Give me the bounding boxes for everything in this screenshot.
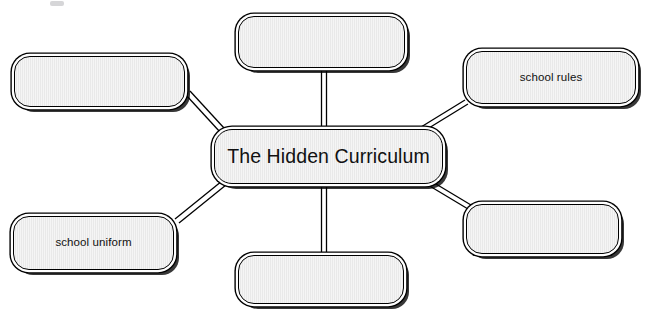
satellite-node-bottom-left[interactable]: school uniform: [13, 216, 174, 270]
satellite-node-bottom-right[interactable]: [466, 204, 619, 254]
satellite-node-bottom-center[interactable]: [238, 255, 404, 304]
central-node-label: The Hidden Curriculum: [227, 145, 430, 167]
satellite-node-top-center[interactable]: [238, 16, 405, 68]
connector-central-to-top-right: [421, 100, 468, 131]
satellite-node-top-left[interactable]: [14, 56, 185, 107]
satellite-node-bottom-left-label: school uniform: [55, 236, 131, 249]
satellite-node-top-right[interactable]: school rules: [466, 51, 636, 104]
connector-central-to-top-center: [322, 69, 327, 131]
connector-central-to-bottom-left: [175, 181, 226, 223]
scan-artifact: [50, 1, 64, 6]
mind-map-diagram: The Hidden Curriculum school rules schoo…: [0, 0, 646, 321]
connector-central-to-bottom-center: [322, 183, 327, 256]
satellite-node-top-right-label: school rules: [520, 71, 583, 84]
connector-central-to-top-left: [186, 91, 224, 132]
central-node[interactable]: The Hidden Curriculum: [214, 129, 443, 184]
